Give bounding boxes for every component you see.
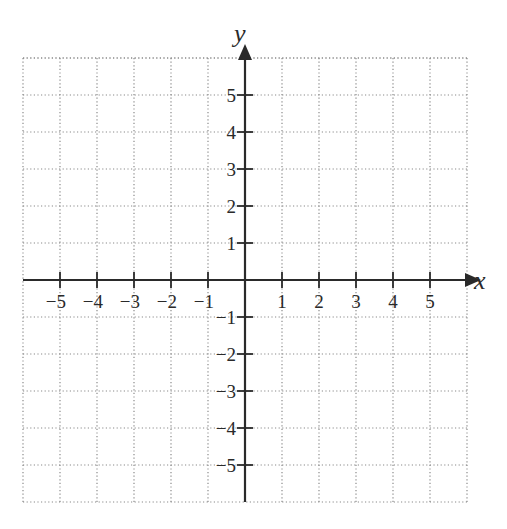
y-tick-label: −4: [216, 418, 237, 439]
x-tick-label: −3: [120, 291, 140, 312]
y-tick-label: 4: [227, 122, 237, 143]
y-tick-label: 2: [227, 196, 237, 217]
y-tick-label: −1: [216, 307, 236, 328]
x-tick-label: 4: [388, 291, 398, 312]
x-tick-label: −1: [194, 291, 214, 312]
coordinate-plane: −5−4−3−2−112345−5−4−3−2−112345 x y: [0, 0, 507, 529]
y-tick-label: −5: [216, 455, 236, 476]
x-axis-label: x: [473, 266, 486, 295]
x-tick-label: −5: [46, 291, 66, 312]
x-tick-label: 3: [351, 291, 361, 312]
y-tick-label: 1: [227, 233, 237, 254]
axes: [23, 44, 481, 502]
x-tick-label: −4: [83, 291, 104, 312]
y-tick-label: −2: [216, 344, 236, 365]
x-tick-label: 2: [314, 291, 324, 312]
x-tick-label: −2: [157, 291, 177, 312]
x-tick-label: 1: [277, 291, 287, 312]
y-axis-label: y: [231, 19, 246, 48]
x-tick-label: 5: [425, 291, 435, 312]
y-tick-label: 5: [227, 85, 237, 106]
y-tick-label: −3: [216, 381, 236, 402]
y-tick-label: 3: [227, 159, 237, 180]
